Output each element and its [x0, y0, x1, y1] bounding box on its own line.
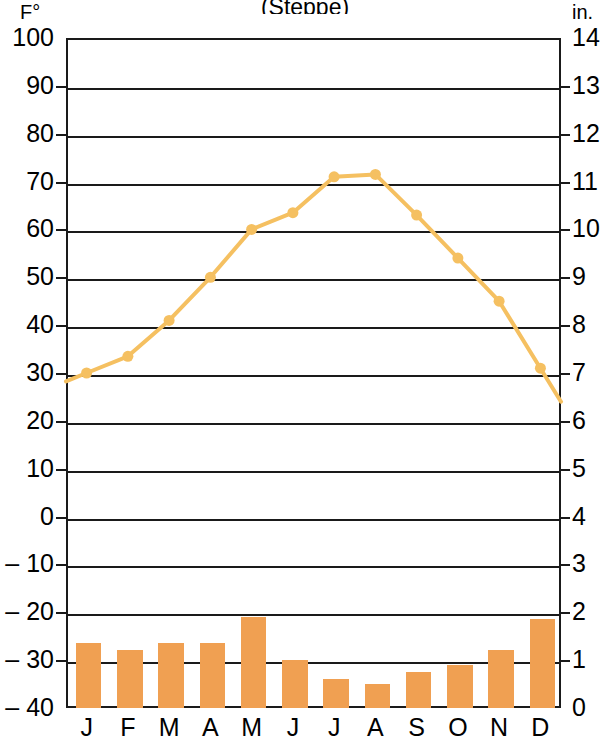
- right-axis-tick-mark: [559, 86, 570, 88]
- month-label: O: [443, 714, 473, 740]
- gridline: [68, 423, 559, 425]
- left-axis-tick-mark: [56, 612, 67, 614]
- gridline: [68, 184, 559, 186]
- right-axis-tick-mark: [559, 660, 570, 662]
- precipitation-bar: [76, 643, 102, 708]
- climate-chart: (Steppe) F° in. 1009080706050403020100– …: [0, 0, 610, 744]
- precipitation-bar: [530, 619, 556, 708]
- right-axis-tick-label: 8: [572, 312, 586, 337]
- left-axis-tick-label: 100: [12, 25, 54, 50]
- left-axis-tick-label: – 40: [5, 695, 54, 720]
- left-axis-tick-mark: [56, 277, 67, 279]
- left-axis-tick-label: 20: [26, 408, 54, 433]
- right-axis-tick-label: 14: [572, 25, 600, 50]
- month-label: N: [484, 714, 514, 740]
- precipitation-bar: [117, 650, 143, 708]
- precipitation-bar: [488, 650, 514, 708]
- gridline: [68, 375, 559, 377]
- left-axis-tick-label: 30: [26, 360, 54, 385]
- left-axis-tick-mark: [56, 517, 67, 519]
- month-label: J: [72, 714, 102, 740]
- precipitation-bar: [447, 665, 473, 708]
- left-axis-tick-label: 70: [26, 169, 54, 194]
- right-axis-tick-mark: [559, 612, 570, 614]
- left-axis-tick-label: 60: [26, 216, 54, 241]
- left-axis-tick-mark: [56, 564, 67, 566]
- right-axis-tick-label: 12: [572, 121, 600, 146]
- right-axis-tick-mark: [559, 421, 570, 423]
- right-axis-tick-label: 9: [572, 264, 586, 289]
- gridline: [68, 88, 559, 90]
- right-axis-tick-label: 2: [572, 599, 586, 624]
- gridline: [68, 519, 559, 521]
- plot-area: [66, 38, 561, 708]
- left-axis-tick-mark: [56, 660, 67, 662]
- precipitation-bar: [323, 679, 349, 708]
- left-axis-tick-label: 50: [26, 264, 54, 289]
- month-label: M: [154, 714, 184, 740]
- right-axis-tick-mark: [559, 325, 570, 327]
- left-axis-tick-label: 40: [26, 312, 54, 337]
- left-axis-tick-label: – 10: [5, 551, 54, 576]
- gridline: [68, 471, 559, 473]
- gridline: [68, 327, 559, 329]
- left-axis-tick-mark: [56, 182, 67, 184]
- month-label: A: [195, 714, 225, 740]
- right-axis-tick-mark: [559, 182, 570, 184]
- month-label: A: [360, 714, 390, 740]
- gridline: [68, 614, 559, 616]
- month-label: F: [113, 714, 143, 740]
- right-axis-tick-label: 4: [572, 504, 586, 529]
- right-axis-tick-label: 11: [572, 169, 598, 194]
- left-axis-tick-label: 90: [26, 73, 54, 98]
- precipitation-bar: [282, 660, 308, 708]
- left-axis-tick-label: 80: [26, 121, 54, 146]
- right-axis-tick-label: 5: [572, 456, 586, 481]
- left-axis-tick-mark: [56, 469, 67, 471]
- left-axis-tick-label: – 30: [5, 647, 54, 672]
- right-axis-unit-label: in.: [572, 2, 593, 22]
- right-axis-tick-label: 6: [572, 408, 586, 433]
- month-label: S: [402, 714, 432, 740]
- right-axis-tick-label: 3: [572, 551, 586, 576]
- right-axis-tick-mark: [559, 229, 570, 231]
- month-label: J: [278, 714, 308, 740]
- right-axis-tick-label: 7: [572, 360, 586, 385]
- chart-title: (Steppe): [0, 0, 610, 14]
- right-axis-tick-label: 10: [572, 216, 600, 241]
- left-axis-tick-label: 10: [26, 456, 54, 481]
- left-axis-tick-mark: [56, 229, 67, 231]
- left-axis-tick-mark: [56, 373, 67, 375]
- right-axis-tick-mark: [559, 469, 570, 471]
- precipitation-bar: [158, 643, 184, 708]
- precipitation-bar: [241, 617, 267, 708]
- right-axis-tick-mark: [559, 517, 570, 519]
- right-axis-tick-mark: [559, 277, 570, 279]
- right-axis-tick-label: 0: [572, 695, 586, 720]
- gridline: [68, 231, 559, 233]
- precipitation-bar: [406, 672, 432, 708]
- left-axis-tick-mark: [56, 86, 67, 88]
- left-axis-unit-label: F°: [20, 2, 40, 22]
- left-axis-tick-label: – 20: [5, 599, 54, 624]
- precipitation-bar: [365, 684, 391, 708]
- right-axis-tick-mark: [559, 564, 570, 566]
- gridline: [68, 279, 559, 281]
- right-axis-tick-mark: [559, 373, 570, 375]
- left-axis-tick-mark: [56, 134, 67, 136]
- right-axis-tick-label: 13: [572, 73, 600, 98]
- precipitation-bar: [200, 643, 226, 708]
- month-label: M: [237, 714, 267, 740]
- right-axis-tick-mark: [559, 134, 570, 136]
- right-axis-tick-label: 1: [572, 647, 586, 672]
- left-axis-tick-mark: [56, 325, 67, 327]
- month-label: D: [525, 714, 555, 740]
- gridline: [68, 566, 559, 568]
- month-label: J: [319, 714, 349, 740]
- gridline: [68, 136, 559, 138]
- left-axis-tick-mark: [56, 421, 67, 423]
- left-axis-tick-label: 0: [40, 504, 54, 529]
